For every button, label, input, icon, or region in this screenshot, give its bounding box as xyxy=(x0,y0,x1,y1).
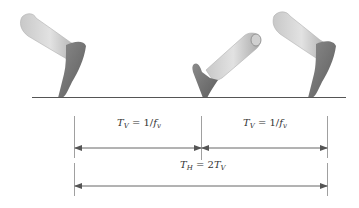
gait-diagram xyxy=(0,0,359,208)
label-symbol: T xyxy=(117,117,124,128)
label-frequency-subscript: v xyxy=(283,122,287,130)
label-symbol: T xyxy=(180,159,187,170)
label-equation: = 1/ xyxy=(255,117,279,128)
label-equation: = 1/ xyxy=(129,117,153,128)
label-symbol-2: T xyxy=(214,159,221,170)
knee-joint xyxy=(251,34,261,46)
label-frequency-subscript: v xyxy=(157,122,161,130)
label-symbol: T xyxy=(243,117,250,128)
label-equation: = 2 xyxy=(193,159,214,170)
th-label: TH = 2TV xyxy=(180,159,226,172)
leg-figure-left xyxy=(20,14,86,98)
leg-figure-middle xyxy=(192,33,261,98)
leg-figure-right xyxy=(273,12,336,98)
label-subscript-2: V xyxy=(221,164,226,172)
tv-label-first: TV = 1/fv xyxy=(117,117,161,130)
tv-label-second: TV = 1/fv xyxy=(243,117,287,130)
